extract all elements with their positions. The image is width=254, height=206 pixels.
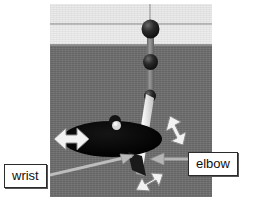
right-double-arrow bbox=[166, 116, 186, 145]
figure-root: wrist elbow bbox=[0, 0, 254, 206]
mid-joint-sphere bbox=[143, 54, 158, 70]
wrist-pointer-line bbox=[50, 154, 134, 176]
bottom-double-arrow bbox=[136, 173, 163, 191]
upper-joint-sphere bbox=[142, 20, 160, 39]
callout-label-wrist: wrist bbox=[4, 164, 47, 188]
callout-label-elbow: elbow bbox=[188, 152, 238, 176]
